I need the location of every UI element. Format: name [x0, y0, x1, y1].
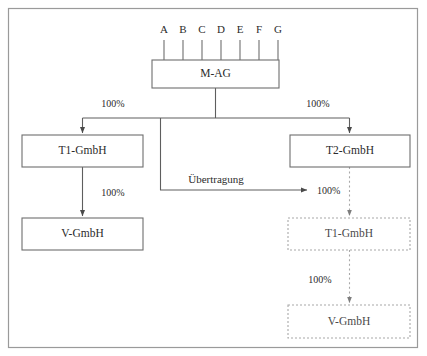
shareholder-label-a: A: [160, 23, 168, 35]
percent-label-t1-to-v-left: 100%: [101, 187, 124, 198]
shareholder-label-e: E: [237, 23, 244, 35]
percent-label-mag-to-t1: 100%: [101, 98, 124, 109]
shareholder-label-d: D: [217, 23, 225, 35]
box-t1-gmbh-left-label: T1-GmbH: [59, 144, 107, 156]
box-v-gmbh-left-label: V-GmbH: [61, 227, 103, 239]
box-v-gmbh-right-label: V-GmbH: [328, 315, 370, 327]
percent-label-mag-to-t2: 100%: [306, 98, 329, 109]
uebertragung-label: Übertragung: [188, 173, 244, 185]
shareholder-stubs: [164, 40, 278, 60]
percent-label-t1-to-v-right: 100%: [308, 274, 331, 285]
shareholder-label-c: C: [198, 23, 205, 35]
shareholder-label-g: G: [274, 23, 282, 35]
shareholder-labels: A B C D E F G: [160, 23, 282, 35]
box-t2-gmbh-label: T2-GmbH: [326, 144, 374, 156]
diagram-canvas: A B C D E F G M-AG T1-GmbH T2-GmbH V-Gmb…: [0, 0, 427, 356]
box-m-ag-label: M-AG: [200, 67, 231, 79]
percent-label-transfer-target: 100%: [317, 185, 340, 196]
shareholder-label-f: F: [256, 23, 262, 35]
corporate-structure-diagram: A B C D E F G M-AG T1-GmbH T2-GmbH V-Gmb…: [0, 0, 427, 356]
shareholder-label-b: B: [179, 23, 186, 35]
box-t1-gmbh-right-label: T1-GmbH: [325, 227, 373, 239]
